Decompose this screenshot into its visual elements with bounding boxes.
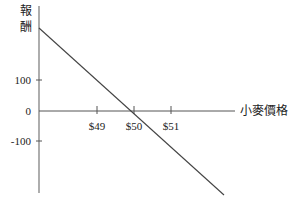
y-tick-label-0: 0 xyxy=(26,105,32,117)
x-tick-label-51: $51 xyxy=(163,120,180,132)
x-axis-title: 小麥價格 xyxy=(240,103,288,118)
y-tick-label-100: 100 xyxy=(15,74,32,86)
y-axis-title-char-2: 酬 xyxy=(20,20,32,34)
y-tick-label-neg100: -100 xyxy=(11,135,32,147)
y-axis-title-char-1: 報 xyxy=(20,4,32,18)
payoff-chart: 100 0 -100 $49 $50 $51 報 酬 小麥價格 xyxy=(0,0,304,206)
x-tick-label-50: $50 xyxy=(126,120,143,132)
x-tick-label-49: $49 xyxy=(89,120,106,132)
